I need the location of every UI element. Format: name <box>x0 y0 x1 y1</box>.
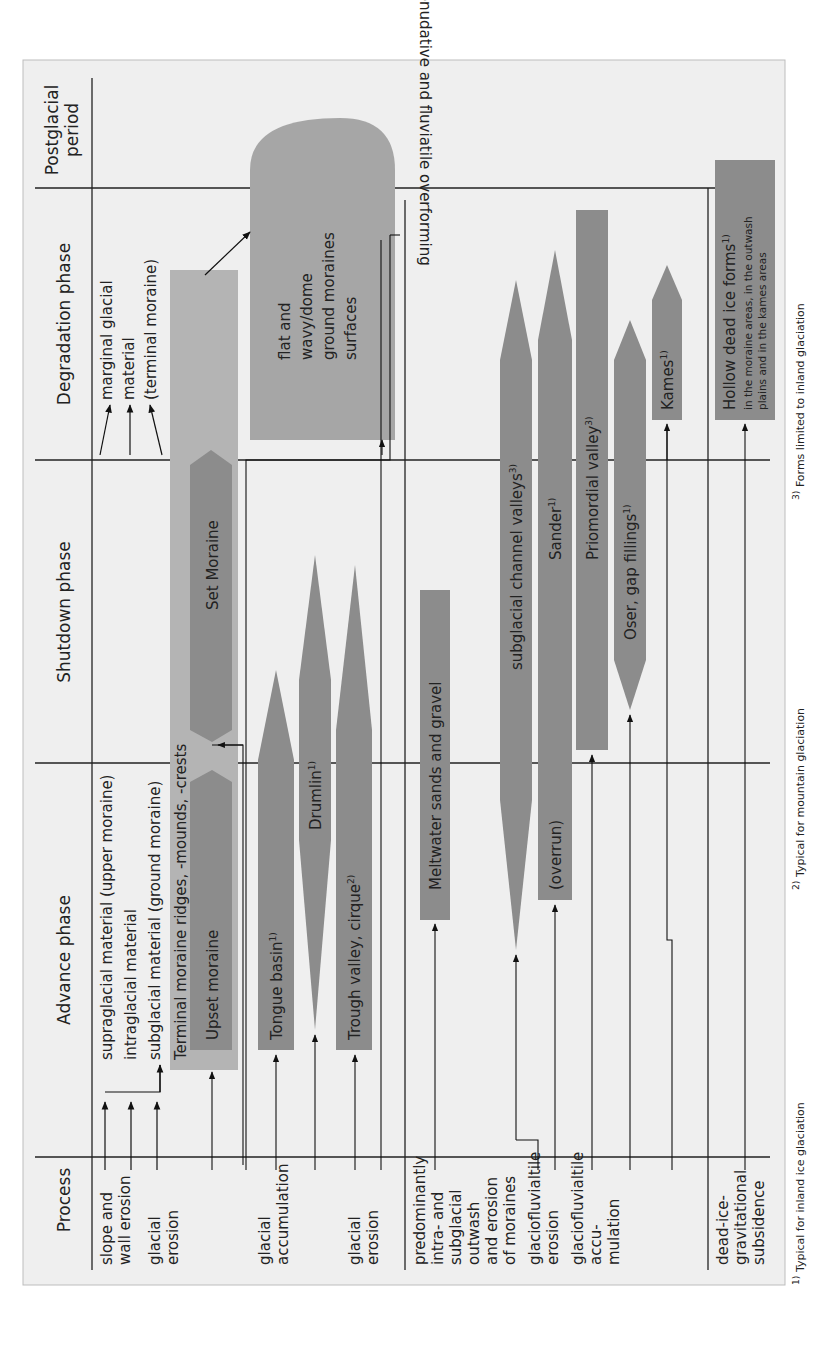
gf-accum-line1: glaciofluvialtile <box>569 1152 587 1265</box>
gf-accum-line3: mulation <box>605 1199 623 1265</box>
header-process: Process <box>54 1168 74 1233</box>
outwash-line5: and erosion <box>483 1177 501 1265</box>
channel-valleys-label: subglacial channel valleys3) <box>508 464 526 670</box>
hollow-note-line1: in the moraine areas, in the outwash <box>742 216 754 410</box>
gf-erosion-line1: glaciofluvialtile <box>526 1152 544 1265</box>
outwash-line2: intra- and <box>429 1192 447 1265</box>
kames-label: Kames1) <box>659 350 677 410</box>
process-slope-line1: slope and <box>98 1192 116 1265</box>
outwash-line3: subglacial <box>447 1190 465 1266</box>
rotated-diagram: Process Advance phase Shutdown phase Deg… <box>0 0 814 1360</box>
header-advance: Advance phase <box>54 895 74 1025</box>
subglacial-material: subglacial material (ground moraine) <box>146 781 164 1060</box>
footnote-2: 2) Typical for mountain glaciation <box>790 708 807 890</box>
drumlin-label: Drumlin1) <box>307 761 325 830</box>
hollow-dead-ice-label: Hollow dead ice forms1) <box>721 234 739 410</box>
header-postglacial: Postglacial <box>42 85 62 176</box>
process-glacial-erosion2-line1: glacial <box>346 1216 364 1265</box>
gf-accum-line2: accu- <box>587 1224 605 1265</box>
footnote-3: 3) Forms limited to inland glaciation <box>790 303 807 500</box>
process-glacial-erosion2-line2: erosion <box>364 1210 382 1265</box>
marginal-material-line3: (terminal moraine) <box>142 259 160 400</box>
process-glacial-erosion-line2: erosion <box>164 1210 182 1265</box>
process-accumulation-line1: glacial <box>256 1216 274 1265</box>
meltwater-label: Meltwater sands and gravel <box>427 682 445 890</box>
diagram-panel <box>23 60 785 1285</box>
ground-moraine-line4: surfaces <box>342 297 360 360</box>
dead-ice-process-line2: gravitational <box>732 1170 750 1265</box>
trough-valley-label: Trough valley, cirque2) <box>346 875 364 1041</box>
overrun-label: (overrun) <box>547 820 565 890</box>
supraglacial-material: supraglacial material (upper moraine) <box>98 775 116 1060</box>
process-glacial-erosion-line1: glacial <box>146 1216 164 1265</box>
outwash-line1: predominantly <box>411 1156 429 1265</box>
marginal-material-line1: marginal glacial <box>98 280 116 400</box>
oser-label: Oser, gap fillings1) <box>622 504 640 640</box>
hollow-note-line2: plains and in the kames areas <box>756 252 768 410</box>
process-slope-line2: wall erosion <box>116 1176 134 1265</box>
upset-moraine-label: Upset moraine <box>204 930 222 1040</box>
dead-ice-process-line1: dead-ice- <box>714 1195 732 1265</box>
sander-label: Sander1) <box>547 498 565 560</box>
ground-moraine-line1: flat and <box>276 302 294 360</box>
dead-ice-process-line3: subsidence <box>750 1180 768 1265</box>
gf-erosion-line2: erosion <box>544 1210 562 1265</box>
process-accumulation-line2: accumulation <box>274 1164 292 1265</box>
header-degradation: Degradation phase <box>54 243 74 405</box>
outwash-line4: outwash <box>465 1202 483 1265</box>
footnote-1: 1) Typical for inland ice glaciation <box>790 1102 807 1285</box>
priomordial-valley-label: Priomordial valley3) <box>584 416 602 560</box>
ground-moraine-line3: ground moraines <box>320 232 338 360</box>
marginal-material-line2: material <box>120 337 138 400</box>
intraglacial-material: intraglacial material <box>122 909 140 1060</box>
header-shutdown: Shutdown phase <box>54 541 74 683</box>
tongue-basin-label: Tongue basin1) <box>268 932 286 1041</box>
glacial-landforms-diagram: Process Advance phase Shutdown phase Deg… <box>0 0 814 1360</box>
outwash-line6: of moraines <box>501 1176 519 1265</box>
header-postglacial-period: period <box>62 103 82 157</box>
sander-shape <box>538 250 572 900</box>
terminal-moraine-label: Terminal moraine ridges, -mounds, -crest… <box>172 744 190 1061</box>
set-moraine-label: Set Moraine <box>204 520 222 610</box>
ground-moraine-line2: wavy/dome <box>298 273 316 360</box>
postglacial-text: denudative and fluviatile overforming <box>416 0 434 266</box>
